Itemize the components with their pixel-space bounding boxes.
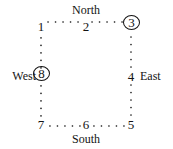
compass-label-west: West: [2, 70, 36, 82]
compass-cycle-diagram: North South West East 1 2 3 4 5 6 7 8: [0, 0, 173, 149]
node-5[interactable]: 5: [123, 118, 139, 131]
compass-label-east: East: [140, 70, 172, 82]
compass-label-north: North: [65, 4, 107, 16]
node-7[interactable]: 7: [33, 118, 49, 131]
node-3[interactable]: 3: [123, 16, 140, 29]
node-4[interactable]: 4: [123, 70, 139, 83]
node-1[interactable]: 1: [33, 20, 49, 33]
node-6[interactable]: 6: [78, 118, 94, 131]
node-8[interactable]: 8: [33, 67, 50, 80]
node-2[interactable]: 2: [78, 20, 94, 33]
compass-label-south: South: [65, 133, 107, 145]
